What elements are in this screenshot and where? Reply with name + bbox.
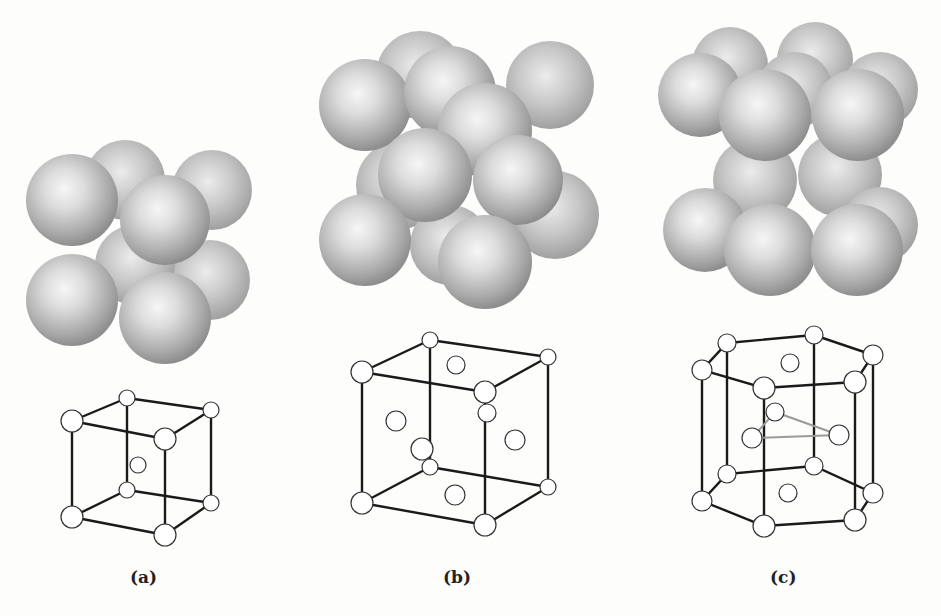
panel-label-c: (c) xyxy=(770,567,796,587)
hcp-sphere-model xyxy=(658,22,918,296)
panel-label-a: (a) xyxy=(130,567,157,587)
figure-canvas xyxy=(0,0,941,616)
crystal-structures-figure: (a) (b) (c) xyxy=(0,0,941,616)
bcc-lattice-atoms xyxy=(61,390,219,546)
bcc-sphere-model xyxy=(26,140,252,364)
fcc-sphere-model xyxy=(319,31,599,309)
panel-label-b: (b) xyxy=(443,567,471,587)
